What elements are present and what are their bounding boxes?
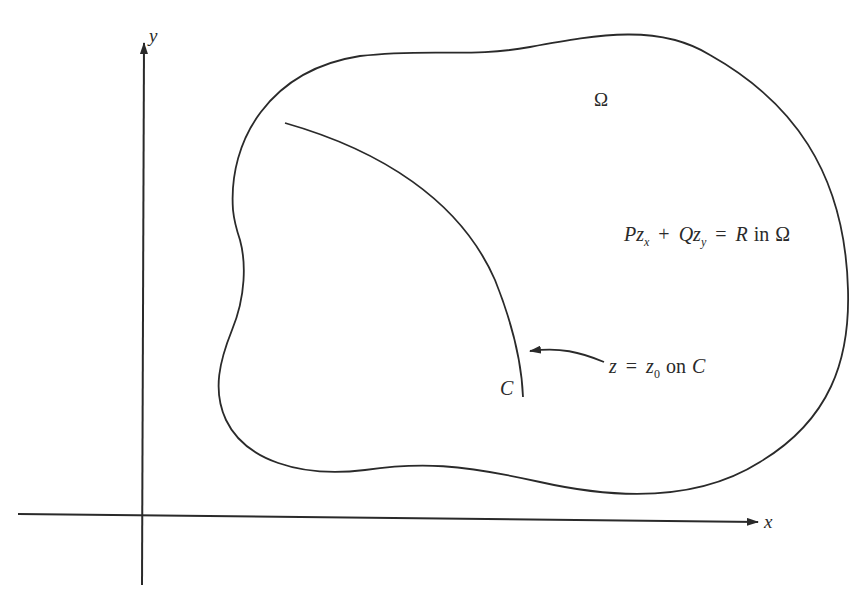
eq-z2: z bbox=[693, 223, 701, 245]
pointer-arrow-icon bbox=[530, 350, 604, 362]
y-axis-label: y bbox=[149, 26, 157, 45]
eq-Q: Q bbox=[679, 223, 693, 245]
x-axis bbox=[18, 514, 758, 522]
bc-z0: z bbox=[646, 355, 654, 377]
bc-equals: = bbox=[626, 355, 637, 377]
eq-equals: = bbox=[715, 223, 726, 245]
bc-z: z bbox=[609, 355, 617, 377]
pde-equation: Pzx+Qzy=RinΩ bbox=[624, 224, 790, 244]
curve-label-c: C bbox=[500, 378, 513, 398]
bc-sub-0: 0 bbox=[654, 367, 660, 381]
boundary-condition: z=z0onC bbox=[609, 356, 705, 376]
region-label-omega: Ω bbox=[594, 90, 608, 109]
initial-curve-c bbox=[285, 123, 523, 397]
eq-z1: z bbox=[636, 223, 644, 245]
eq-in: in bbox=[754, 223, 770, 245]
diagram-canvas bbox=[0, 0, 860, 610]
bc-C: C bbox=[692, 355, 705, 377]
x-axis-label: x bbox=[764, 512, 772, 531]
eq-R: R bbox=[735, 223, 747, 245]
eq-sub-x: x bbox=[644, 235, 649, 249]
bc-on: on bbox=[666, 355, 686, 377]
y-axis bbox=[142, 43, 144, 585]
eq-omega: Ω bbox=[775, 223, 790, 245]
eq-sub-y: y bbox=[701, 235, 706, 249]
region-boundary bbox=[219, 34, 849, 493]
eq-plus: + bbox=[658, 223, 669, 245]
eq-P: P bbox=[624, 223, 636, 245]
